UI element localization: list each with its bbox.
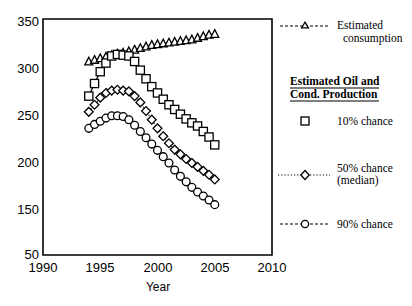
chart-figure: 350 300 250 200 150 50 1990 1995 2000 20… xyxy=(0,0,412,306)
circle-data-marker xyxy=(131,121,139,129)
x-tick-1990: 1990 xyxy=(29,260,58,275)
x-tick-1995: 1995 xyxy=(86,260,115,275)
legend-label-consumption-line1: Estimated xyxy=(337,19,383,31)
circle-data-marker xyxy=(165,159,173,167)
y-axis-tick-labels: 350 300 250 200 150 50 xyxy=(17,14,39,262)
diamond-marker-icon xyxy=(301,171,309,180)
diamond-data-marker xyxy=(159,132,168,141)
axis-frame xyxy=(43,19,272,255)
x-axis-tick-labels: 1990 1995 2000 2005 2010 xyxy=(29,260,287,275)
legend-label-50-percent-line2: (median) xyxy=(337,174,379,187)
square-data-marker xyxy=(131,57,139,65)
legend-label-90-percent: 90% chance xyxy=(337,218,393,230)
diamond-data-marker xyxy=(142,107,151,116)
circle-marker-icon xyxy=(301,220,308,227)
square-data-marker xyxy=(142,75,150,83)
legend: Estimated consumption Estimated Oil and … xyxy=(278,19,403,230)
diamond-data-marker xyxy=(153,124,162,133)
square-data-marker xyxy=(205,133,213,141)
legend-label-10-percent: 10% chance xyxy=(337,115,393,127)
chart-canvas: 350 300 250 200 150 50 1990 1995 2000 20… xyxy=(0,0,412,306)
legend-heading-line1: Estimated Oil and xyxy=(290,75,380,87)
square-data-marker xyxy=(90,79,98,87)
x-tick-2010: 2010 xyxy=(258,260,287,275)
legend-item-10-percent[interactable]: 10% chance xyxy=(301,115,393,127)
circle-data-marker xyxy=(136,128,144,136)
series-2 xyxy=(85,50,219,149)
circle-data-marker xyxy=(148,140,156,148)
diamond-data-marker xyxy=(147,115,156,124)
circle-data-marker xyxy=(171,166,179,174)
legend-item-50-percent[interactable]: 50% chance (median) xyxy=(278,162,393,187)
square-data-marker xyxy=(136,66,144,74)
y-tick-200: 200 xyxy=(17,155,39,170)
legend-label-consumption-line2: consumption xyxy=(343,32,403,45)
y-tick-350: 350 xyxy=(17,14,39,29)
x-axis-title: Year xyxy=(146,280,170,294)
series-line xyxy=(89,54,215,144)
data-series-layer xyxy=(84,30,219,209)
legend-heading: Estimated Oil and Cond. Production xyxy=(290,75,380,101)
x-tick-2000: 2000 xyxy=(144,260,173,275)
triangle-data-marker xyxy=(211,30,219,38)
square-marker-icon xyxy=(301,117,309,125)
triangle-marker-icon xyxy=(302,22,309,28)
circle-data-marker xyxy=(142,134,150,142)
y-tick-150: 150 xyxy=(17,202,39,217)
plot-area: 350 300 250 200 150 50 1990 1995 2000 20… xyxy=(0,0,412,306)
y-tick-250: 250 xyxy=(17,108,39,123)
legend-item-estimated-consumption[interactable]: Estimated consumption xyxy=(280,19,403,45)
legend-label-50-percent-line1: 50% chance xyxy=(337,162,393,174)
x-tick-2005: 2005 xyxy=(201,260,230,275)
square-data-marker xyxy=(211,141,219,149)
circle-data-marker xyxy=(159,153,167,161)
y-tick-300: 300 xyxy=(17,61,39,76)
legend-heading-line2: Cond. Production xyxy=(290,88,378,100)
circle-data-marker xyxy=(154,146,162,154)
circle-data-marker xyxy=(211,201,219,209)
legend-item-90-percent[interactable]: 90% chance xyxy=(280,218,393,230)
square-data-marker xyxy=(96,68,104,76)
square-data-marker xyxy=(85,92,93,100)
diamond-data-marker xyxy=(136,98,145,107)
